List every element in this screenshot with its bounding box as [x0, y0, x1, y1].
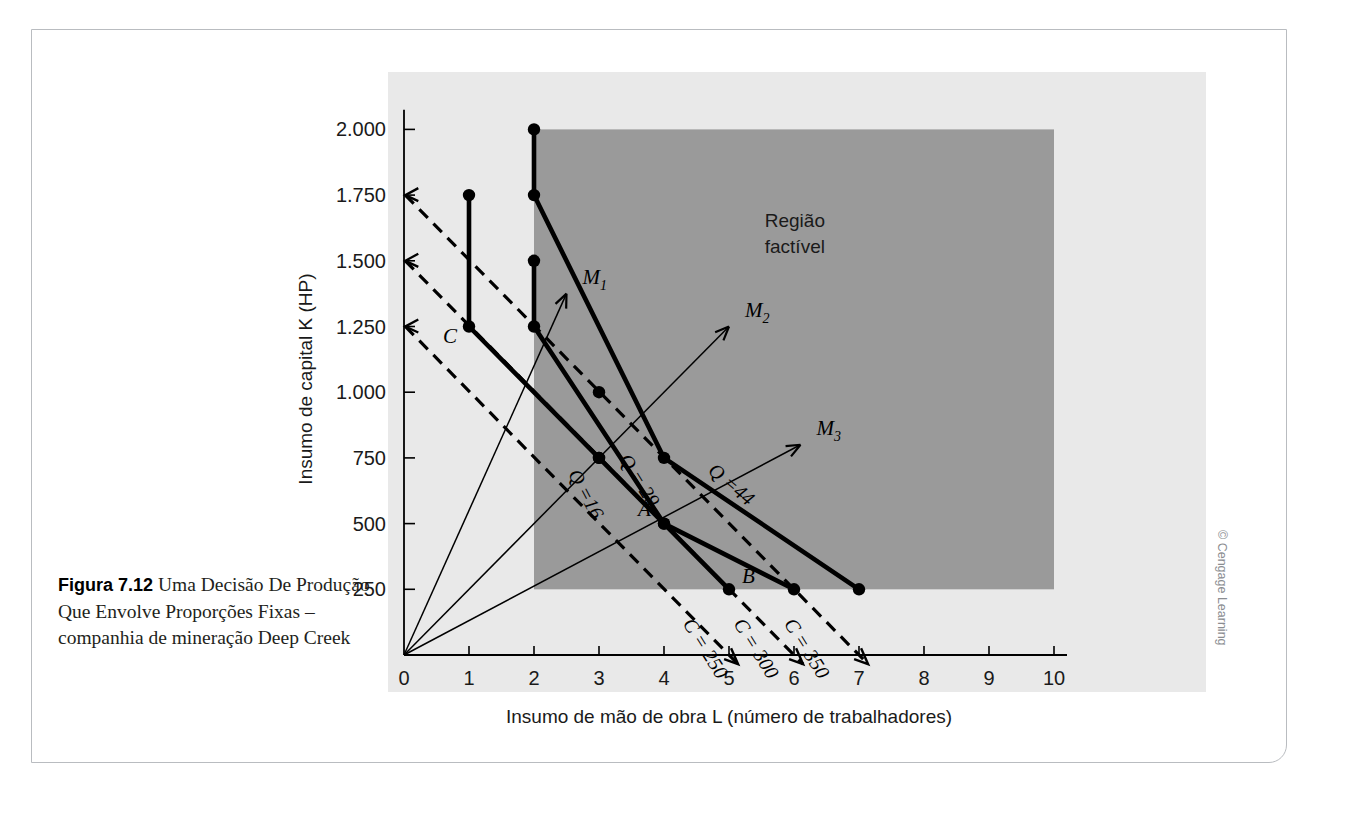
data-point [528, 255, 540, 267]
data-point [658, 517, 670, 529]
x-tick-label: 6 [788, 667, 799, 689]
x-axis-title: Insumo de mão de obra L (número de traba… [506, 706, 952, 727]
chart-svg: Regiãofactível0123456789102505007501.000… [0, 0, 1345, 826]
y-tick-label: 1.000 [336, 381, 386, 403]
ray-label-subscript: 1 [600, 278, 607, 293]
ray-label-subscript: 2 [763, 311, 770, 326]
data-point [528, 189, 540, 201]
data-point [593, 452, 605, 464]
feasible-region-label-2: factível [765, 236, 825, 257]
x-tick-label: 3 [593, 667, 604, 689]
x-tick-label: 7 [853, 667, 864, 689]
isocost-label: C = 300 [730, 614, 784, 682]
point-label-c: C [443, 324, 458, 348]
data-point [463, 189, 475, 201]
y-tick-label: 1.750 [336, 184, 386, 206]
data-point [658, 452, 670, 464]
y-tick-label: 2.000 [336, 118, 386, 140]
data-point [853, 583, 865, 595]
data-point [463, 320, 475, 332]
x-tick-label: 0 [398, 667, 409, 689]
data-point [528, 320, 540, 332]
y-tick-label: 1.500 [336, 250, 386, 272]
y-tick-label: 750 [353, 447, 386, 469]
isocost-label: C = 250 [679, 614, 733, 682]
point-label-b: B [742, 564, 755, 588]
x-tick-label: 2 [528, 667, 539, 689]
data-point [788, 583, 800, 595]
feasible-region-label-1: Região [765, 210, 825, 231]
y-tick-label: 1.250 [336, 316, 386, 338]
x-tick-label: 1 [463, 667, 474, 689]
feasible-region [534, 129, 1054, 589]
point-label-a: A [636, 497, 651, 521]
ray-label-subscript: 3 [833, 429, 841, 444]
x-tick-label: 9 [983, 667, 994, 689]
data-point [528, 123, 540, 135]
x-tick-label: 8 [918, 667, 929, 689]
y-axis-title: Insumo de capital K (HP) [295, 273, 316, 484]
y-tick-label: 250 [353, 578, 386, 600]
figure-root: Figura 7.12 Uma Decisão De Produção Que … [0, 0, 1345, 826]
x-tick-label: 4 [658, 667, 669, 689]
y-tick-label: 500 [353, 513, 386, 535]
data-point [593, 386, 605, 398]
data-point [723, 583, 735, 595]
x-tick-label: 10 [1043, 667, 1065, 689]
